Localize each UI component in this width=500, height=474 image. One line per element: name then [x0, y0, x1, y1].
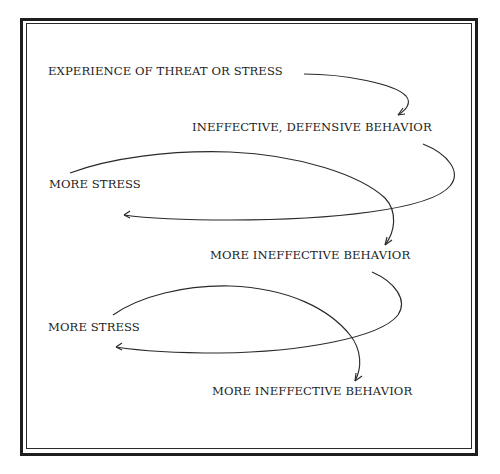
arrow-ineffective-1-to-more-stress-2: [116, 272, 401, 353]
flow-arrows: [0, 0, 500, 474]
arrow-threat-to-defensive: [304, 74, 408, 115]
arrow-defensive-to-more-stress-1: [124, 144, 454, 220]
arrow-more-stress-2-to-ineffective-2: [113, 286, 362, 381]
arrow-more-stress-1-to-ineffective-1: [70, 152, 394, 245]
